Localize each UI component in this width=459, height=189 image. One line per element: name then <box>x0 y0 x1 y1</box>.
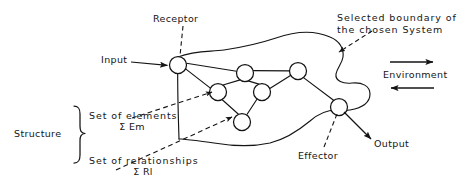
node-element-b <box>237 65 254 82</box>
effector-leader <box>324 114 337 147</box>
edge-nc-ne <box>270 75 291 88</box>
network-nodes <box>170 57 348 131</box>
label-sum-rl: Σ Rl <box>89 166 197 178</box>
label-environment: Environment <box>383 69 448 81</box>
edge-nb-nc <box>248 81 259 84</box>
label-input: Input <box>101 54 127 66</box>
label-boundary-line2: the chosen System <box>337 24 443 36</box>
edge-ne-effector <box>304 78 334 101</box>
node-element-e <box>290 63 307 80</box>
label-set-of-relationships: Set of relationships <box>89 155 199 167</box>
node-receptor <box>170 57 187 74</box>
receptor-leader <box>180 26 183 56</box>
label-set-of-elements: Set of elements <box>89 110 177 122</box>
diagram-canvas: Receptor Input Selected boundary of the … <box>0 0 459 189</box>
edge-nc-nd <box>247 99 257 114</box>
structure-brace <box>74 106 85 163</box>
label-effector: Effector <box>298 150 338 162</box>
node-element-c <box>254 84 271 101</box>
edge-receptor-nb <box>186 63 236 71</box>
label-structure: Structure <box>14 128 61 140</box>
edge-na-nd <box>222 100 238 115</box>
edge-receptor-na <box>186 69 211 88</box>
label-output: Output <box>374 138 409 150</box>
output-arrow <box>344 112 371 139</box>
edge-na-nb <box>223 80 240 85</box>
label-boundary-line1: Selected boundary of <box>337 12 457 24</box>
label-sum-em: Σ Em <box>89 121 175 133</box>
node-element-a <box>210 84 227 101</box>
input-arrow <box>131 62 168 65</box>
node-element-d <box>234 114 251 131</box>
label-receptor: Receptor <box>153 13 198 25</box>
